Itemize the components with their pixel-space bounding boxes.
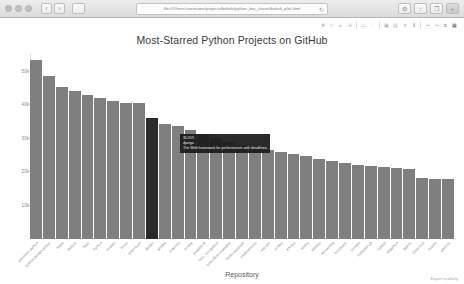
x-tick-cell: django <box>146 240 158 274</box>
bar[interactable] <box>146 118 158 239</box>
lassoselect-tool[interactable]: ◌ <box>369 22 376 29</box>
bar[interactable] <box>94 98 106 239</box>
bar[interactable] <box>391 168 403 239</box>
bar-column[interactable] <box>339 54 351 239</box>
bar-column[interactable] <box>403 54 415 239</box>
bar-column[interactable] <box>326 54 338 239</box>
boxzoom-tool[interactable]: □ <box>328 22 335 29</box>
reload-icon[interactable]: ↻ <box>319 5 324 12</box>
forward-icon[interactable]: › <box>54 3 65 14</box>
bar-column[interactable] <box>416 54 428 239</box>
bar-column[interactable] <box>442 54 454 239</box>
bar-column[interactable] <box>82 54 94 239</box>
bar[interactable] <box>326 161 338 239</box>
navigation-buttons: ‹ › <box>41 3 85 14</box>
bar[interactable] <box>133 103 145 239</box>
x-tick-label: keras <box>120 241 129 250</box>
bar-column[interactable] <box>365 54 377 239</box>
bar[interactable] <box>416 178 428 239</box>
x-tick-label: you-get <box>259 241 270 252</box>
bar[interactable] <box>69 91 81 239</box>
bar-column[interactable] <box>107 54 119 239</box>
boxselect-tool[interactable]: ▭ <box>360 22 367 29</box>
bar[interactable] <box>262 150 274 239</box>
undo-tool[interactable]: ↩ <box>424 22 431 29</box>
bar[interactable] <box>82 95 94 239</box>
bar[interactable] <box>120 103 132 239</box>
x-tick-cell: Python <box>94 240 106 274</box>
maximize-window-button[interactable] <box>25 5 32 12</box>
bar-column[interactable] <box>429 54 441 239</box>
x-tick-label: awesome-python <box>17 241 39 263</box>
bar[interactable] <box>43 76 55 239</box>
bar-column[interactable] <box>120 54 132 239</box>
bar[interactable] <box>403 169 415 239</box>
back-icon[interactable]: ‹ <box>41 3 52 14</box>
x-tick-cell: requests <box>172 240 184 274</box>
bar-column[interactable] <box>313 54 325 239</box>
bar[interactable] <box>339 163 351 239</box>
x-tick-label: thefuck <box>66 241 77 252</box>
bar[interactable] <box>210 138 222 239</box>
bar[interactable] <box>249 147 261 239</box>
redo-tool[interactable]: ↪ <box>433 22 440 29</box>
bokeh-toolbar: ✥□⌕✛▭◌▣▤✕⬇↩↪≡▦ <box>319 22 458 29</box>
bar[interactable] <box>429 179 441 239</box>
bar-column[interactable] <box>391 54 403 239</box>
x-tick-label: httpie <box>55 241 64 250</box>
sidebar-icon[interactable] <box>72 3 85 14</box>
share-icon[interactable]: ↑ <box>414 3 427 14</box>
menu-tool[interactable]: ≡ <box>442 22 449 29</box>
bar-column[interactable] <box>352 54 364 239</box>
bar-column[interactable] <box>94 54 106 239</box>
x-tick-cell: redash <box>378 240 390 274</box>
tap-tool[interactable]: ▣ <box>383 22 390 29</box>
bar-column[interactable] <box>69 54 81 239</box>
bar[interactable] <box>236 145 248 239</box>
settings-icon[interactable]: ⚙ <box>398 3 411 14</box>
bar[interactable] <box>107 101 119 239</box>
wheelzoom-tool[interactable]: ⌕ <box>337 22 344 29</box>
x-tick-label: pipenv <box>402 241 412 251</box>
bar[interactable] <box>56 87 68 239</box>
bar[interactable] <box>288 154 300 239</box>
bar-column[interactable] <box>133 54 145 239</box>
bar-column[interactable] <box>288 54 300 239</box>
bar[interactable] <box>30 60 42 239</box>
bar-column[interactable] <box>159 54 171 239</box>
bar-column[interactable] <box>300 54 312 239</box>
help-tool[interactable]: ▦ <box>451 22 458 29</box>
bar[interactable] <box>352 165 364 239</box>
bar[interactable] <box>313 159 325 239</box>
x-tick-cell: XX-Net <box>288 240 300 274</box>
bar[interactable] <box>275 152 287 239</box>
bar[interactable] <box>365 166 377 239</box>
bar-column[interactable] <box>30 54 42 239</box>
x-tick-cell: sentry <box>300 240 312 274</box>
hover-tool[interactable]: ▤ <box>392 22 399 29</box>
x-tick-cell: manim <box>429 240 441 274</box>
pan-tool[interactable]: ✥ <box>319 22 326 29</box>
bar-column[interactable] <box>378 54 390 239</box>
bar[interactable] <box>300 156 312 239</box>
bar-column[interactable] <box>56 54 68 239</box>
x-tick-cell: flask <box>82 240 94 274</box>
bar[interactable] <box>378 167 390 239</box>
bar-column[interactable] <box>146 54 158 239</box>
x-tick-label: certbot <box>273 241 284 252</box>
x-tick-cell: models <box>107 240 119 274</box>
newtab-icon[interactable]: + <box>446 3 459 14</box>
save-tool[interactable]: ⬇ <box>410 22 417 29</box>
bar[interactable] <box>223 142 235 239</box>
bar-column[interactable] <box>43 54 55 239</box>
crosshair-tool[interactable]: ✛ <box>346 22 353 29</box>
bar-column[interactable] <box>275 54 287 239</box>
reset-tool[interactable]: ✕ <box>401 22 408 29</box>
export-link[interactable]: Export to plot.ly <box>430 276 458 281</box>
tabs-icon[interactable]: ❐ <box>430 3 443 14</box>
address-bar[interactable]: file:///Users/username/projects/bokeh/py… <box>136 3 328 15</box>
bar[interactable] <box>442 179 454 239</box>
x-tick-label: ansible <box>157 241 168 252</box>
bar[interactable] <box>159 124 171 239</box>
x-tick-cell: system-design-primer <box>43 240 55 274</box>
